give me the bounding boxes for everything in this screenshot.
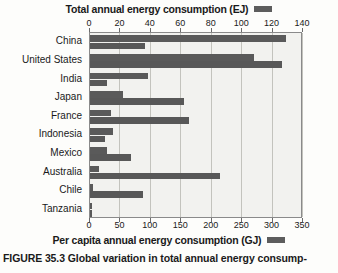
category-label: Mexico xyxy=(0,147,82,158)
top-series-swatch-icon xyxy=(254,6,272,12)
bottom-axis-tick-mark xyxy=(150,218,151,222)
top-axis-tick-mark xyxy=(180,28,181,32)
top-axis-legend: Total annual energy consumption (EJ) xyxy=(0,1,338,16)
bar-total-energy xyxy=(90,35,286,42)
category-label: Tanzania xyxy=(0,203,82,214)
bar-total-energy xyxy=(90,110,111,117)
plot-area xyxy=(89,32,302,218)
top-axis-tick-mark xyxy=(211,28,212,32)
bar-per-capita-energy xyxy=(90,98,184,105)
category-label: Australia xyxy=(0,166,82,177)
bar-total-energy xyxy=(90,73,148,80)
top-axis-tick-mark xyxy=(241,28,242,32)
category-label: China xyxy=(0,35,82,46)
bar-per-capita-energy xyxy=(90,43,145,50)
bar-per-capita-energy xyxy=(90,210,92,217)
category-label: France xyxy=(0,110,82,121)
bar-per-capita-energy xyxy=(90,80,107,87)
category-label: Chile xyxy=(0,184,82,195)
top-axis-tick-mark xyxy=(302,28,303,32)
bar-total-energy xyxy=(90,203,92,210)
bottom-axis-tick-mark xyxy=(272,218,273,222)
top-axis-tick-label: 20 xyxy=(114,18,124,28)
bar-total-energy xyxy=(90,128,113,135)
bar-per-capita-energy xyxy=(90,191,143,198)
bottom-axis-tick-labels: 050100150200250300350 xyxy=(0,220,338,232)
top-axis-title: Total annual energy consumption (EJ) xyxy=(66,3,249,15)
top-axis-tick-label: 40 xyxy=(145,18,155,28)
bottom-axis-title: Per capita annual energy consumption (GJ… xyxy=(53,234,262,246)
bar-total-energy xyxy=(90,54,254,61)
gridline xyxy=(302,33,303,217)
figure-container: Total annual energy consumption (EJ) 020… xyxy=(0,0,338,273)
bottom-axis-tick-mark xyxy=(119,218,120,222)
bottom-axis-tick-mark xyxy=(89,218,90,222)
bottom-axis-tick-mark xyxy=(180,218,181,222)
top-axis-tick-label: 120 xyxy=(264,18,279,28)
bar-total-energy xyxy=(90,166,99,173)
bottom-axis-tick-mark xyxy=(241,218,242,222)
bar-per-capita-energy xyxy=(90,154,131,161)
bar-total-energy xyxy=(90,91,123,98)
bar-total-energy xyxy=(90,147,107,154)
bottom-axis-tick-mark xyxy=(302,218,303,222)
top-axis-tick-label: 80 xyxy=(206,18,216,28)
category-axis-labels: ChinaUnited StatesIndiaJapanFranceIndone… xyxy=(0,32,86,218)
category-label: India xyxy=(0,73,82,84)
top-axis-tick-mark xyxy=(272,28,273,32)
top-axis-tick-label: 140 xyxy=(294,18,309,28)
category-label: Japan xyxy=(0,91,82,102)
top-axis-tick-label: 0 xyxy=(86,18,91,28)
bar-per-capita-energy xyxy=(90,173,220,180)
figure-caption: FIGURE 35.3 Global variation in total an… xyxy=(3,252,337,265)
bar-per-capita-energy xyxy=(90,117,189,124)
top-axis-tick-mark xyxy=(119,28,120,32)
bar-total-energy xyxy=(90,184,93,191)
category-label: Indonesia xyxy=(0,128,82,139)
bottom-series-swatch-icon xyxy=(267,237,285,243)
figure-number: FIGURE 35.3 xyxy=(3,252,65,264)
category-label: United States xyxy=(0,54,82,65)
top-axis-tick-labels: 020406080100120140 xyxy=(0,18,338,30)
figure-caption-text: Global variation in total annual energy … xyxy=(68,252,307,264)
top-axis-tick-mark xyxy=(89,28,90,32)
top-axis-tick-mark xyxy=(150,28,151,32)
top-axis-tick-label: 60 xyxy=(175,18,185,28)
bar-per-capita-energy xyxy=(90,136,105,143)
top-axis-tick-label: 100 xyxy=(234,18,249,28)
bottom-axis-tick-mark xyxy=(211,218,212,222)
bar-per-capita-energy xyxy=(90,61,282,68)
bottom-axis-legend: Per capita annual energy consumption (GJ… xyxy=(0,232,338,247)
